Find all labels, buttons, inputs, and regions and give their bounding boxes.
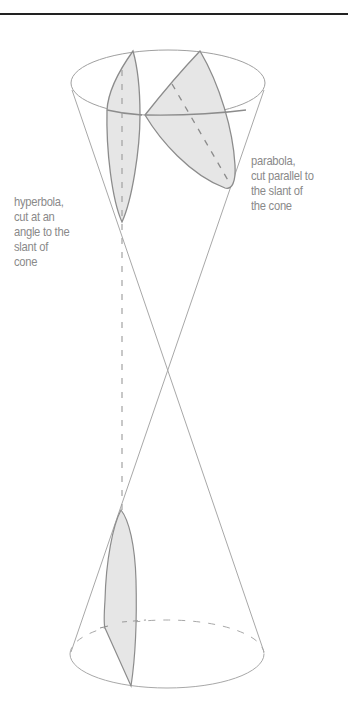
hyperbola-label-line: angle to the (14, 224, 69, 239)
parabola-label-line: parabola, (251, 153, 314, 168)
parabola-label-line: the cone (251, 198, 314, 213)
hyperbola-label: hyperbola, cut at an angle to the slant … (14, 194, 69, 269)
hyperbola-label-line: cut at an (14, 209, 69, 224)
hyperbola-label-line: hyperbola, (14, 194, 69, 209)
parabola-label-line: cut parallel to (251, 168, 314, 183)
bottom-rim-back-dashed (70, 620, 264, 654)
lower-hyperbola-section (100, 510, 146, 686)
bottom-rim-front (70, 654, 264, 688)
hyperbola-label-line: cone (14, 254, 69, 269)
parabola-label-line: the slant of (251, 183, 314, 198)
hyperbola-label-line: slant of (14, 239, 69, 254)
upper-hyperbola-section (107, 51, 142, 222)
conic-sections-diagram (0, 0, 348, 716)
parabola-label: parabola, cut parallel to the slant of t… (251, 153, 314, 213)
parabola-section (145, 51, 246, 188)
lower-nappe (70, 620, 264, 688)
